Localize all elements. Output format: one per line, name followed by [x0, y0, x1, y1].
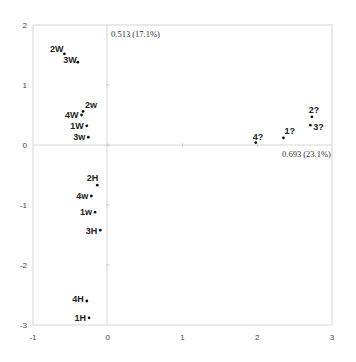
data-point: [94, 211, 97, 214]
x-tick-label: 1: [180, 333, 185, 342]
data-point-label: 2H: [87, 173, 99, 183]
x-tick-label: 2: [255, 333, 260, 342]
data-point-label: 1W: [70, 121, 84, 131]
data-point-label: 2w: [85, 100, 98, 110]
x-tick-label: 3: [330, 333, 335, 342]
data-point-label: 2?: [309, 105, 320, 115]
data-point-label: 4W: [65, 110, 79, 120]
y-tick-label: -2: [20, 261, 28, 270]
y-axis-label: 0.513 (17.1%): [111, 29, 160, 39]
data-point-label: 4?: [253, 132, 264, 142]
x-tick-label: -1: [29, 333, 37, 342]
y-tick-label: -3: [20, 321, 28, 330]
data-point-label: 1?: [284, 126, 295, 136]
data-point: [76, 61, 79, 64]
x-axis-label: 0.693 (23.1%): [282, 149, 331, 159]
data-point: [310, 115, 313, 118]
y-tick-label: 2: [23, 21, 28, 30]
data-points: 2W3W2w4W1W3w2H4w1w3H4H1H4?1?2?3?: [50, 44, 324, 323]
data-point: [88, 316, 91, 319]
data-point: [87, 136, 90, 139]
data-point-label: 3W: [63, 55, 77, 65]
data-point-label: 3w: [73, 132, 86, 142]
data-point: [85, 124, 88, 127]
data-point-label: 3H: [86, 226, 98, 236]
data-point: [309, 124, 312, 127]
data-point: [96, 184, 99, 187]
plot-frame: [33, 25, 332, 325]
data-point: [90, 195, 93, 198]
data-point-label: 4w: [76, 191, 89, 201]
data-point: [282, 136, 285, 139]
data-point-label: 4H: [72, 294, 84, 304]
y-tick-label: -1: [20, 201, 28, 210]
data-point-label: 2W: [50, 44, 64, 54]
scatter-plot: -10123210-1-2-3 2W3W2w4W1W3w2H4w1w3H4H1H…: [0, 0, 356, 362]
data-point-label: 1w: [80, 207, 93, 217]
data-point: [254, 141, 257, 144]
data-point-label: 3?: [313, 122, 324, 132]
data-point: [99, 229, 102, 232]
data-point: [80, 114, 83, 117]
data-point: [82, 110, 85, 113]
data-point-label: 1H: [75, 313, 87, 323]
data-point: [85, 300, 88, 303]
y-tick-label: 0: [23, 141, 28, 150]
y-tick-label: 1: [23, 81, 28, 90]
axis-ticks: -10123210-1-2-3: [20, 21, 335, 342]
x-tick-label: 0: [106, 333, 111, 342]
